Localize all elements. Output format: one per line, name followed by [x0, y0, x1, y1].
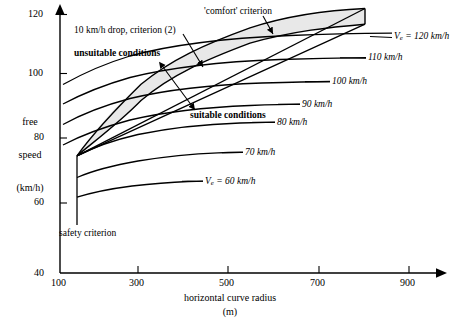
x-axis-units: (m)	[205, 306, 255, 317]
x-tick-label-700: 700	[310, 277, 325, 288]
x-axis-title: horizontal curve radius	[155, 292, 305, 303]
y-axis-title-line-1: free	[2, 116, 58, 127]
curve-label-ve-60: Ve = 60 km/h	[205, 176, 255, 187]
y-axis-arrowhead	[55, 4, 65, 15]
y-axis-title-line-2: speed	[2, 149, 58, 160]
curve-label-ve-120-sub: e	[400, 34, 403, 42]
leader-line-ve120	[370, 37, 392, 38]
curve-label-ve-60-sub: e	[211, 179, 214, 187]
y-tick-label-100: 100	[28, 67, 43, 78]
annotation-comfort-criterion: 'comfort' criterion	[204, 6, 272, 16]
curve-label-110: 110 km/h	[368, 52, 402, 62]
curve-label-70: 70 km/h	[245, 147, 275, 157]
curve-ve-60	[77, 181, 203, 197]
annotation-suitable-conditions: suitable conditions	[190, 110, 266, 120]
x-tick-label-900: 900	[400, 277, 415, 288]
curve-label-90: 90 km/h	[302, 99, 332, 109]
curve-110	[63, 58, 366, 104]
y-tick-label-120: 120	[28, 8, 43, 19]
curve-label-80: 80 km/h	[277, 117, 307, 127]
annotation-unsuitable-conditions: unsuitable conditions	[74, 48, 160, 58]
chart-plot-area	[0, 0, 463, 323]
annotation-safety-criterion: safety criterion	[59, 228, 116, 238]
annotation-drop-criterion: 10 km/h drop, criterion (2)	[74, 25, 176, 35]
curve-label-ve-120-text: = 120 km/h	[405, 31, 449, 41]
y-axis-title-line-3: (km/h)	[2, 182, 58, 193]
curve-label-ve-120: Ve = 120 km/h	[394, 31, 449, 42]
chart-figure: 120 100 80 60 40 100 300 500 700 900 fre…	[0, 0, 463, 323]
x-tick-label-100: 100	[51, 277, 66, 288]
y-axis-title: free speed (km/h)	[2, 94, 58, 215]
y-tick-label-40: 40	[34, 267, 44, 278]
curve-70	[77, 152, 243, 177]
x-tick-label-300: 300	[129, 277, 144, 288]
x-axis-arrowhead	[436, 268, 447, 277]
curve-label-ve-60-text: = 60 km/h	[216, 176, 255, 186]
x-tick-label-500: 500	[219, 277, 234, 288]
curve-label-100: 100 km/h	[332, 76, 367, 86]
